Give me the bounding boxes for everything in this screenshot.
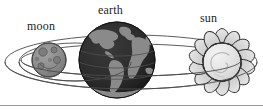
label-sun: sun — [200, 12, 217, 24]
earth-graphic — [79, 22, 156, 98]
sun-graphic — [188, 29, 257, 96]
moon-graphic — [32, 43, 66, 77]
diagram-canvas — [0, 0, 263, 110]
solar-system-diagram: moon earth sun — [0, 0, 263, 110]
label-earth: earth — [98, 4, 123, 16]
label-moon: moon — [27, 20, 55, 32]
